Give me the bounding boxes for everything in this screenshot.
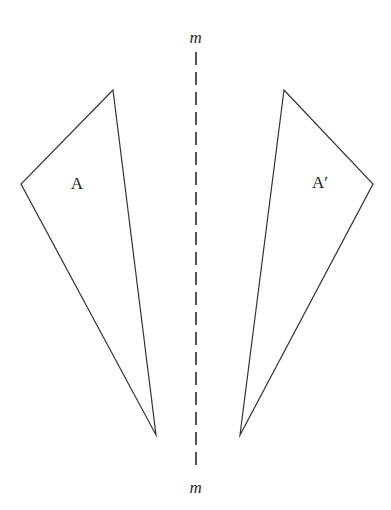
shape-label-a: A — [71, 175, 83, 192]
diagram-canvas — [0, 0, 391, 510]
triangle-a-shape — [21, 90, 156, 435]
reflection-diagram: m m A A′ — [0, 0, 391, 510]
mirror-label-top: m — [190, 29, 203, 46]
triangle-a-prime-shape — [240, 90, 373, 435]
mirror-label-bottom: m — [190, 479, 203, 496]
shape-label-a-prime: A′ — [312, 174, 328, 191]
